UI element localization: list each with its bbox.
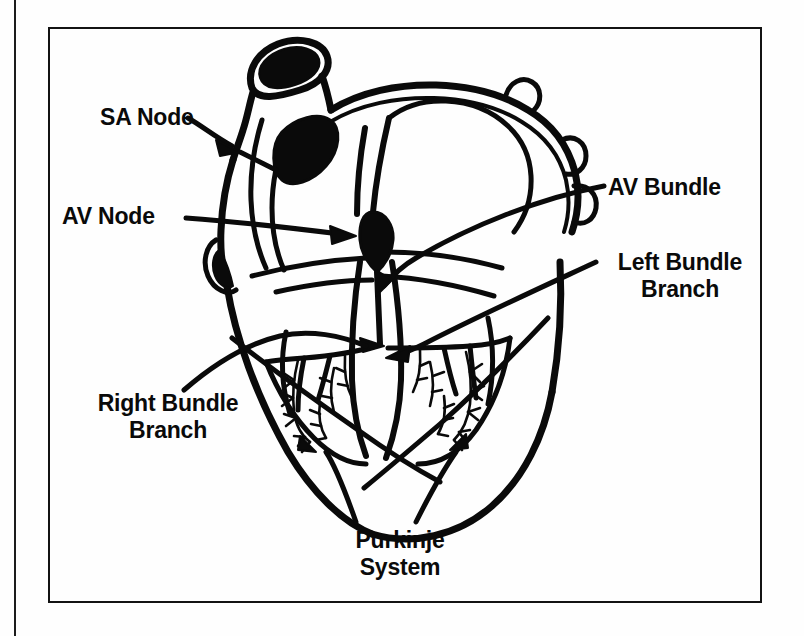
- auricle-lumen: [213, 250, 233, 288]
- av-node-leader-line: [186, 218, 340, 234]
- sa-node-marker: [274, 116, 338, 183]
- label-purkinje-system: Purkinje System: [330, 527, 470, 581]
- label-left-bundle-branch-line1: Left Bundle: [618, 249, 742, 275]
- label-right-bundle-branch-line1: Right Bundle: [98, 390, 239, 416]
- label-av-bundle: AV Bundle: [608, 174, 721, 201]
- label-purkinje-system-line2: System: [360, 554, 441, 580]
- av-node-arrowhead: [330, 226, 356, 244]
- sa-node-leader-tail: [240, 152, 276, 170]
- interatrial-septum: [357, 118, 389, 214]
- label-av-node: AV Node: [62, 203, 155, 230]
- label-right-bundle-branch: Right Bundle Branch: [68, 390, 268, 444]
- label-sa-node: SA Node: [100, 104, 194, 131]
- sa-node-leader-line: [188, 118, 232, 146]
- atrial-roof-inner: [330, 98, 568, 232]
- purkinje-right-arrowhead: [450, 434, 468, 450]
- label-purkinje-system-line1: Purkinje: [355, 527, 444, 553]
- av-node-marker: [360, 212, 393, 272]
- av-bundle-arrowhead: [376, 270, 392, 296]
- label-left-bundle-branch: Left Bundle Branch: [600, 249, 760, 303]
- label-left-bundle-branch-line2: Branch: [641, 276, 719, 302]
- figure-page: SA Node AV Node AV Bundle Left Bundle Br…: [0, 0, 804, 636]
- label-right-bundle-branch-line2: Branch: [129, 417, 207, 443]
